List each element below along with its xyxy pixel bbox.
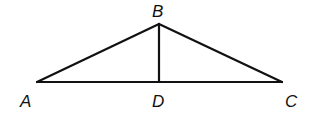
segment-bc xyxy=(159,24,282,82)
label-d: D xyxy=(152,92,164,111)
label-a: A xyxy=(19,92,31,111)
label-c: C xyxy=(285,92,298,111)
triangle-diagram: B A D C xyxy=(0,0,328,120)
label-b: B xyxy=(152,2,163,21)
segment-ab xyxy=(37,24,159,82)
